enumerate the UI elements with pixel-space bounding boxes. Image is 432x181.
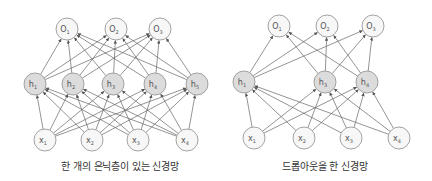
connection-arrow: [68, 40, 72, 73]
connection-arrow: [100, 92, 146, 133]
connection-arrow: [50, 94, 68, 130]
connection-arrow: [312, 90, 358, 131]
connection-arrow: [250, 36, 273, 73]
connection-arrow: [123, 38, 149, 75]
connection-arrow: [37, 95, 43, 129]
connection-arrow: [246, 93, 252, 127]
connection-arrow: [166, 39, 191, 75]
input-node-x2: x2: [293, 127, 315, 149]
output-node-o2: O2: [316, 15, 338, 37]
input-node-x4: x4: [388, 127, 410, 149]
connection-arrow: [82, 35, 150, 78]
connection-arrow: [368, 37, 372, 71]
input-node-x1: x1: [243, 127, 265, 149]
connection-arrow: [146, 92, 189, 132]
connection-arrow: [96, 95, 109, 130]
connection-arrow: [102, 89, 187, 134]
connection-arrow: [325, 38, 326, 72]
connection-arrow: [263, 89, 316, 131]
connection-arrow: [45, 34, 149, 80]
output-node-o1: O1: [56, 18, 78, 40]
hidden-node-h5: h5: [186, 73, 208, 95]
connection-arrow: [161, 94, 182, 130]
connection-arrow: [254, 31, 362, 78]
dropout-network-diagram: O1O2O3h1h3h4x1x2x3x4: [233, 15, 410, 149]
output-node-o1: O1: [268, 15, 290, 37]
dropout-network-nodes: O1O2O3h1h3h4x1x2x3x4: [233, 15, 410, 149]
connection-arrow: [45, 90, 128, 135]
connection-arrow: [82, 92, 130, 133]
connection-arrow: [373, 92, 394, 128]
hidden-node-h1: h1: [24, 73, 46, 95]
hidden-node-h2: h2: [62, 73, 84, 95]
output-node-o3: O3: [149, 18, 171, 40]
output-node-o2: O2: [105, 18, 127, 40]
hidden-node-h3: h3: [102, 73, 124, 95]
input-node-x3: x3: [127, 129, 149, 151]
connection-arrow: [120, 38, 152, 76]
hidden-node-h4: h4: [356, 71, 378, 93]
connection-arrow: [330, 92, 347, 128]
output-node-o3: O3: [362, 15, 384, 37]
full-network-caption: 한 개의 은닉층이 있는 신경망: [61, 158, 179, 173]
connection-arrow: [41, 39, 62, 75]
hidden-node-h1: h1: [233, 71, 255, 93]
neural-network-diagrams: O1O2O3h1h2h3h4h5x1x2x3x4 O1O2O3h1h3h4x1x…: [0, 0, 432, 181]
input-node-x2: x2: [81, 129, 103, 151]
input-node-x3: x3: [340, 127, 362, 149]
connection-arrow: [114, 41, 116, 74]
connection-arrow: [83, 89, 177, 135]
dropout-network-caption: 드롭아웃을 한 신경망: [282, 158, 367, 173]
hidden-node-h4: h4: [144, 73, 166, 95]
input-node-x1: x1: [34, 129, 56, 151]
input-node-x4: x4: [176, 129, 198, 151]
hidden-node-h3: h3: [314, 71, 336, 93]
full-network-diagram: O1O2O3h1h2h3h4h5x1x2x3x4: [24, 18, 208, 151]
full-network-nodes: O1O2O3h1h2h3h4h5x1x2x3x4: [24, 18, 208, 151]
connection-arrow: [254, 87, 341, 133]
connection-arrow: [189, 95, 195, 129]
